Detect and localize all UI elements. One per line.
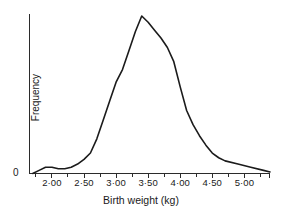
frequency-curve	[33, 16, 270, 174]
x-axis-tick-label: 4·00	[170, 178, 189, 188]
data-series-group	[33, 16, 270, 174]
y-axis-title: Frequency	[30, 43, 41, 153]
x-axis-tick-label: 2·00	[42, 178, 61, 188]
x-axis-tick-label: 3·00	[106, 178, 125, 188]
axis-lines	[30, 14, 271, 174]
birth-weight-frequency-chart: 0 Frequency Birth weight (kg) 2·002·503·…	[0, 0, 282, 215]
x-axis-tick-label: 4·50	[203, 178, 222, 188]
x-axis-tick-label: 2·50	[74, 178, 93, 188]
x-axis-title: Birth weight (kg)	[0, 194, 282, 206]
x-axis-tick-label: 3·50	[138, 178, 157, 188]
y-axis-zero-label: 0	[13, 167, 19, 178]
x-axis-tick-label: 5·00	[235, 178, 254, 188]
